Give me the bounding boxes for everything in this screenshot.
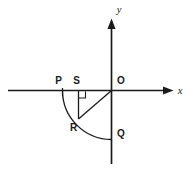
x-axis-arrow-icon bbox=[163, 87, 174, 95]
segment-OR bbox=[79, 91, 112, 120]
geometry-canvas: P S O R Q x y bbox=[0, 0, 195, 173]
right-angle-mark-at-S bbox=[79, 92, 86, 99]
label-point-Q: Q bbox=[117, 128, 125, 139]
label-point-O: O bbox=[117, 75, 125, 86]
label-point-P: P bbox=[55, 75, 62, 86]
label-point-S: S bbox=[73, 75, 80, 86]
y-axis-arrow-icon bbox=[108, 19, 116, 30]
label-y-axis: y bbox=[116, 4, 122, 15]
label-x-axis: x bbox=[177, 85, 183, 96]
geometry-figure: P S O R Q x y bbox=[0, 0, 195, 173]
label-point-R: R bbox=[70, 122, 78, 133]
